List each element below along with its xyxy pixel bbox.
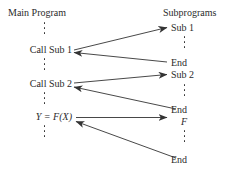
- arrow-layer: [0, 0, 229, 170]
- control-flow-diagram: Main Program Subprograms Call Sub 1 Call…: [0, 0, 229, 170]
- arrow-call-sub-2-to-sub-2: [74, 75, 167, 84]
- arrow-end-1-to-call-sub-1: [74, 53, 167, 63]
- arrow-end-3-to-y-equals-f-x: [76, 122, 176, 159]
- arrow-end-2-to-call-sub-2: [74, 87, 176, 109]
- arrow-call-sub-1-to-sub-1: [74, 28, 167, 51]
